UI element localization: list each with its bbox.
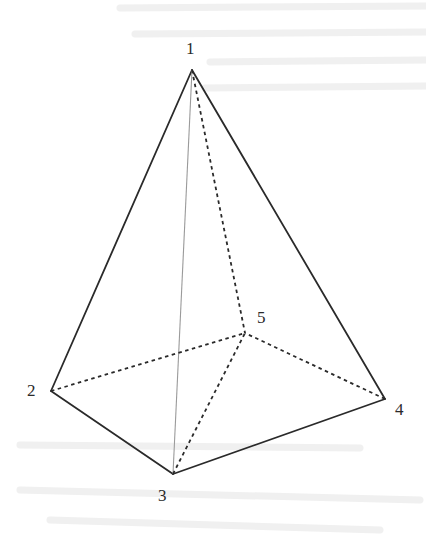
edge-1-5	[192, 70, 245, 333]
edge-1-4	[192, 70, 385, 399]
vertex-label-4: 4	[395, 400, 404, 419]
vertex-label-5: 5	[257, 308, 266, 327]
edge-4-5	[245, 333, 385, 399]
pyramid-diagram: 12345	[0, 0, 426, 534]
vertex-label-1: 1	[186, 39, 195, 58]
vertex-label-3: 3	[158, 486, 167, 505]
vertex-label-2: 2	[27, 381, 36, 400]
bleed-through-texture	[20, 6, 426, 530]
edge-1-2	[51, 70, 192, 391]
edge-2-5	[51, 333, 245, 391]
edge-2-3	[51, 391, 173, 474]
pyramid-edges	[51, 70, 385, 474]
edge-1-3	[173, 70, 192, 474]
